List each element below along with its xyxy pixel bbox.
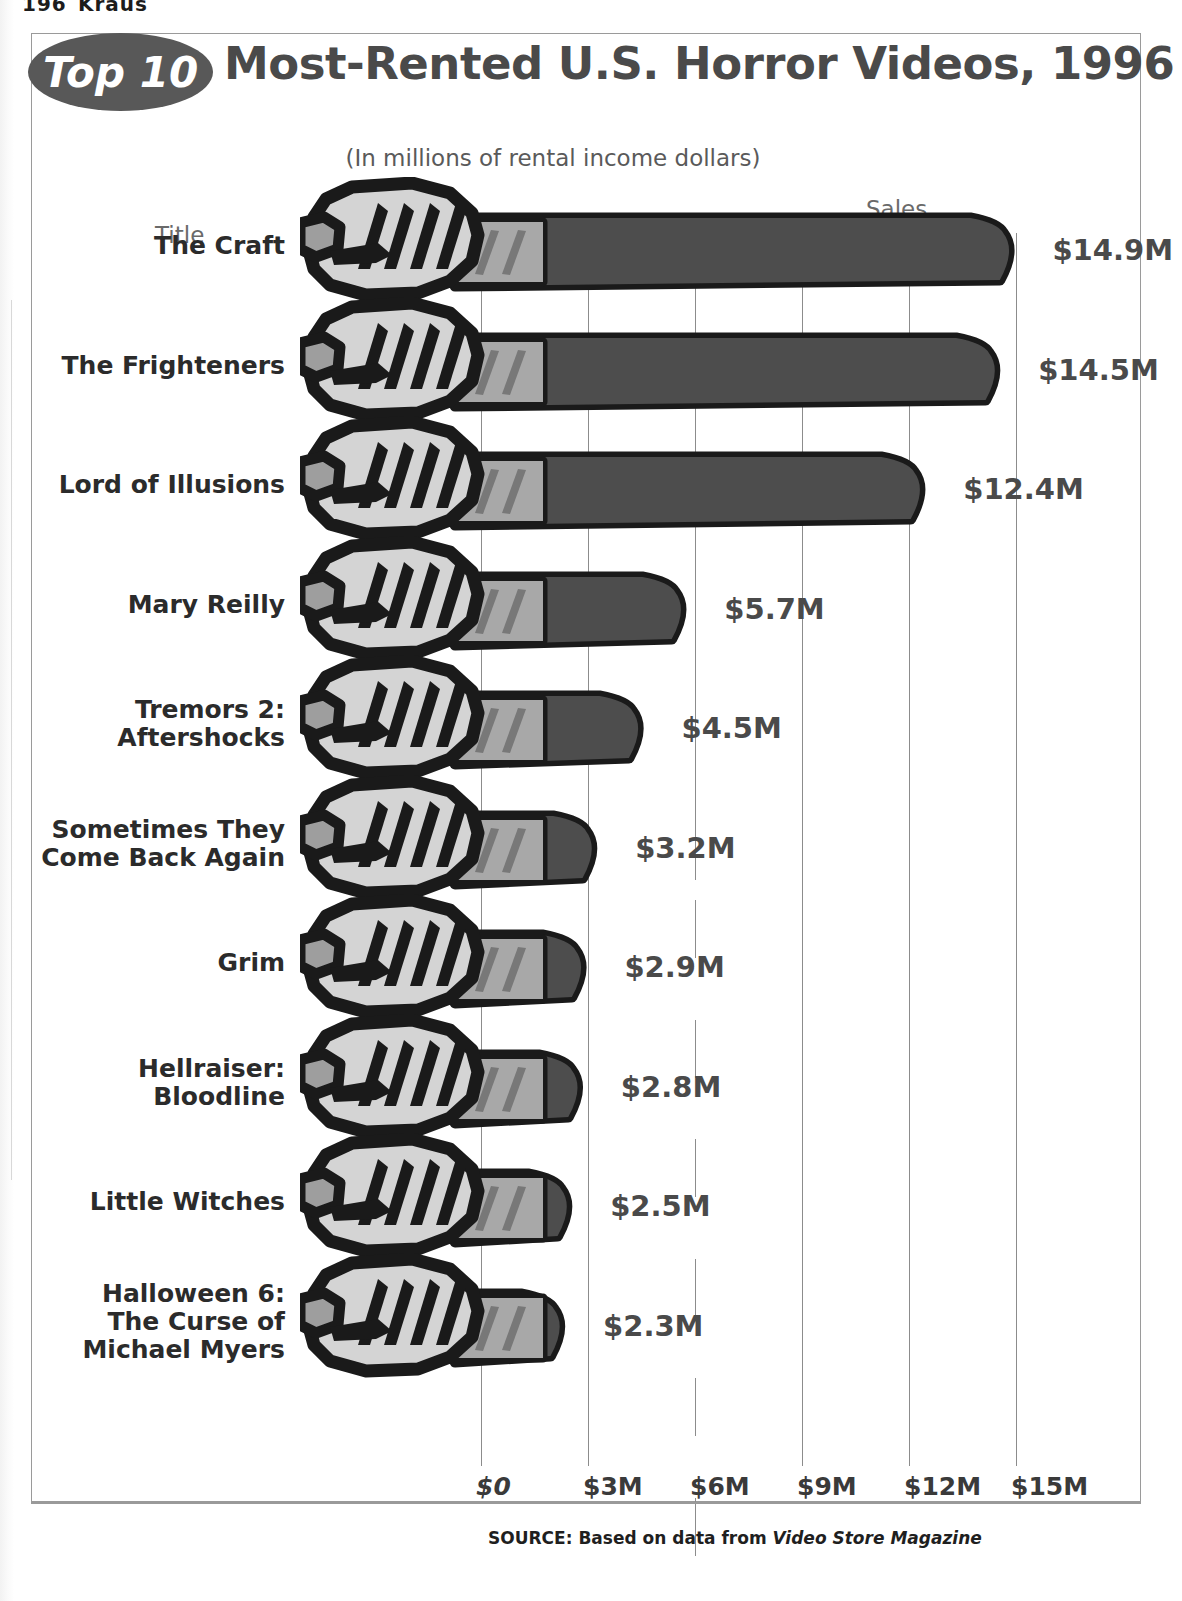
gridline-segment-6M <box>695 1378 696 1436</box>
fist-hand <box>300 781 478 893</box>
x-tick-label-$0: $0 <box>476 1472 511 1501</box>
row-label-1: The Frighteners <box>40 352 285 380</box>
fist-hand <box>300 1020 478 1132</box>
row-label-7: Hellraiser: Bloodline <box>40 1055 285 1111</box>
value-label-0: $14.9M <box>1052 233 1173 267</box>
page-root: 196Kraus Top 10 Most-Rented U.S. Horror … <box>0 0 1182 1601</box>
row-label-9: Halloween 6: The Curse of Michael Myers <box>40 1280 285 1364</box>
fist-hand <box>300 661 478 773</box>
x-tick-label-$12M: $12M <box>904 1472 981 1501</box>
fist-hand <box>300 1139 478 1251</box>
x-tick-label-$3M: $3M <box>583 1472 643 1501</box>
row-label-4: Tremors 2: Aftershocks <box>40 696 285 752</box>
row-label-5: Sometimes They Come Back Again <box>40 816 285 872</box>
row-label-2: Lord of Illusions <box>40 471 285 499</box>
row-label-3: Mary Reilly <box>40 591 285 619</box>
source-note: SOURCE: Based on data from Video Store M… <box>488 1528 982 1548</box>
value-label-1: $14.5M <box>1038 353 1159 387</box>
fist-hand <box>300 900 478 1012</box>
fist-hand <box>300 303 478 415</box>
bar-knife-9 <box>300 1253 640 1403</box>
fist-hand <box>300 422 478 534</box>
source-magazine: Video Store Magazine <box>773 1528 982 1548</box>
bottom-rule <box>31 1502 1141 1504</box>
row-label-8: Little Witches <box>40 1188 285 1216</box>
value-label-5: $3.2M <box>635 831 735 865</box>
value-label-6: $2.9M <box>624 950 724 984</box>
value-label-9: $2.3M <box>603 1309 703 1343</box>
value-label-7: $2.8M <box>621 1070 721 1104</box>
value-label-8: $2.5M <box>610 1189 710 1223</box>
x-tick-label-$15M: $15M <box>1011 1472 1088 1501</box>
plot-area: TitleSales$0$3M$6M$9M$12M$15MThe CraftTh… <box>0 0 1110 1469</box>
row-label-6: Grim <box>40 949 285 977</box>
fist-hand <box>300 1259 478 1371</box>
value-label-4: $4.5M <box>682 711 782 745</box>
row-label-0: The Craft <box>40 232 285 260</box>
source-prefix: SOURCE: Based on data from <box>488 1528 773 1548</box>
value-label-2: $12.4M <box>963 472 1084 506</box>
x-tick-label-$9M: $9M <box>797 1472 857 1501</box>
fist-hand <box>300 183 478 295</box>
value-label-3: $5.7M <box>724 592 824 626</box>
x-tick-label-$6M: $6M <box>690 1472 750 1501</box>
fist-hand <box>300 542 478 654</box>
